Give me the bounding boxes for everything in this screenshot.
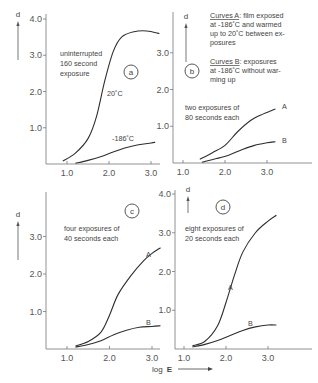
legend-a-line-2: up to 20˚C between ex- <box>210 29 285 38</box>
panel-d: 1.02.03.04.01.02.03.0ddeight exposures o… <box>158 185 312 363</box>
series-label: A <box>146 250 151 259</box>
panel-badge-label: b <box>190 67 195 76</box>
series-label: -186˚C <box>112 134 134 143</box>
panel-annotation: four exposures of <box>64 224 120 233</box>
figure: 1.02.03.04.01.02.03.0dauninterrupted160 … <box>0 0 318 383</box>
y-tick-label: 1.0 <box>29 123 42 133</box>
series-label: 20˚C <box>107 89 123 98</box>
y-axis-arrowhead <box>16 21 19 26</box>
x-tick-label: 1.0 <box>178 353 191 363</box>
y-tick-label: 4.0 <box>158 189 171 199</box>
series-line-b <box>76 326 161 347</box>
legend-a-line-3: posures <box>210 38 236 47</box>
y-tick-label: 3.0 <box>156 48 169 58</box>
svg-text:Curves B: exposures: Curves B: exposures <box>210 57 277 66</box>
x-axis-label-e: E <box>167 365 173 374</box>
series-line-b <box>192 325 276 347</box>
x-axis-label: log <box>152 365 163 374</box>
series-label: B <box>146 318 151 327</box>
svg-text:Curves A: film exposed: Curves A: film exposed <box>210 11 284 20</box>
legend-b-line-1: at -186˚C without war- <box>210 66 281 75</box>
y-tick-label: 2.0 <box>29 269 42 279</box>
y-axis-label: d <box>16 210 20 219</box>
y-axis-label: d <box>184 12 188 21</box>
x-tick-label: 1.0 <box>61 353 74 363</box>
x-tick-label: 1.0 <box>177 167 190 177</box>
panel-annotation: two exposures of <box>185 103 239 112</box>
legend-b-title: Curves B <box>210 57 240 66</box>
panel-badge-label: c <box>130 207 134 216</box>
y-tick-label: 2.0 <box>156 85 169 95</box>
legend: Curves A: film exposed at -186˚C and war… <box>210 11 285 84</box>
x-tick-label: 2.0 <box>219 167 232 177</box>
series-label: A <box>228 283 233 292</box>
panel-annotation: uninterrupted <box>60 49 102 58</box>
series-label: B <box>248 319 253 328</box>
y-axis-arrowhead <box>186 196 189 201</box>
panel-annotation: 20 seconds each <box>185 234 239 243</box>
series-line-b <box>75 142 155 163</box>
legend-a-line-1: at -186˚C and warmed <box>210 20 282 29</box>
y-tick-label: 4.0 <box>29 14 42 24</box>
series-line-a <box>76 248 161 346</box>
panel-badge-label: a <box>129 68 134 77</box>
y-tick-label: 3.0 <box>158 228 171 238</box>
panel-annotation: 160 second <box>60 59 97 68</box>
panel-annotation: eight exposures of <box>185 224 244 233</box>
x-tick-label: 3.0 <box>146 353 159 363</box>
y-tick-label: 3.0 <box>29 232 42 242</box>
y-tick-label: 1.0 <box>158 305 171 315</box>
x-tick-label: 3.0 <box>145 168 158 178</box>
y-tick-label: 1.0 <box>29 307 42 317</box>
svg-text:logE: logE <box>152 365 173 374</box>
x-tick-label: 3.0 <box>261 167 274 177</box>
x-tick-label: 2.0 <box>220 353 233 363</box>
x-tick-label: 3.0 <box>262 353 275 363</box>
panel-annotation: 80 seconds each <box>185 113 239 122</box>
panel-annotation: exposure <box>60 69 90 78</box>
x-tick-label: 2.0 <box>103 168 116 178</box>
y-tick-label: 1.0 <box>156 121 169 131</box>
y-axis-arrowhead <box>184 23 187 28</box>
panel-annotation: 40 seconds each <box>64 234 118 243</box>
series-label: B <box>282 136 287 145</box>
x-tick-label: 2.0 <box>103 353 116 363</box>
panel-badge-label: d <box>221 203 225 212</box>
y-tick-label: 3.0 <box>29 50 42 60</box>
panel-c: 1.02.03.01.02.03.0dcfour exposures of40 … <box>16 192 161 363</box>
panel-a: 1.02.03.04.01.02.03.0dauninterrupted160 … <box>16 10 160 178</box>
y-axis-label: d <box>186 185 190 194</box>
x-tick-label: 1.0 <box>61 168 74 178</box>
legend-b-line-2: ming up <box>210 75 236 84</box>
legend-a-line-0: : film exposed <box>239 11 283 20</box>
legend-a-title: Curves A <box>210 11 239 20</box>
y-axis-label: d <box>16 10 20 19</box>
legend-b-line-0: : exposures <box>240 57 278 66</box>
y-axis-arrowhead <box>16 221 19 226</box>
x-axis-arrowhead <box>208 367 213 371</box>
y-tick-label: 2.0 <box>158 267 171 277</box>
series-label: A <box>282 102 287 111</box>
y-tick-label: 2.0 <box>29 87 42 97</box>
